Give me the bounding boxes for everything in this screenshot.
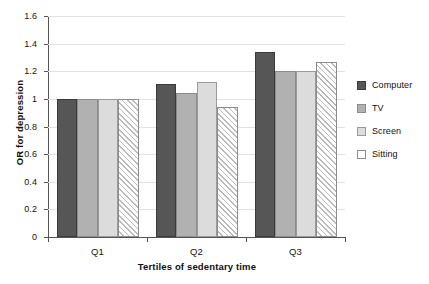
x-tick-label-q1: Q1 xyxy=(91,246,104,257)
x-tick-mark xyxy=(48,237,49,242)
legend-swatch-icon xyxy=(357,150,366,159)
y-tick-mark: 1 xyxy=(44,99,48,100)
bar-tv-q1 xyxy=(77,99,98,237)
y-tick-label: 0.8 xyxy=(24,122,37,132)
y-tick-label: 0 xyxy=(32,232,37,242)
bar-computer-q1 xyxy=(57,99,78,237)
legend-item-sitting[interactable]: Sitting xyxy=(357,149,429,159)
y-tick-label: 0.2 xyxy=(24,204,37,214)
y-tick-mark: 0.8 xyxy=(44,127,48,128)
x-tick-mark xyxy=(345,237,346,242)
bar-computer-q3 xyxy=(255,52,276,237)
bar-screen-q3 xyxy=(296,71,317,237)
x-tick-mark xyxy=(147,237,148,242)
bar-sitting-q3 xyxy=(316,62,337,237)
legend-label: Screen xyxy=(372,126,401,136)
bar-screen-q2 xyxy=(197,82,218,237)
y-tick-mark: 0.2 xyxy=(44,209,48,210)
bar-screen-q1 xyxy=(98,99,119,237)
x-axis-title: Tertiles of sedentary time xyxy=(48,261,346,272)
legend-label: Sitting xyxy=(372,149,398,159)
y-tick-label: 0.4 xyxy=(24,177,37,187)
y-tick-mark: 1.2 xyxy=(44,71,48,72)
y-tick-label: 0.6 xyxy=(24,149,37,159)
y-tick-label: 1.2 xyxy=(24,66,37,76)
bar-sitting-q1 xyxy=(118,99,139,237)
bar-sitting-q2 xyxy=(217,107,238,237)
y-tick-label: 1.4 xyxy=(24,39,37,49)
bar-tv-q2 xyxy=(176,93,197,237)
gridline xyxy=(48,44,345,45)
y-axis-title: OR for depression xyxy=(14,53,25,193)
y-tick-label: 1 xyxy=(32,94,37,104)
y-tick-label: 1.6 xyxy=(24,11,37,21)
legend-swatch-icon xyxy=(357,81,366,90)
x-tick-label-q2: Q2 xyxy=(190,246,203,257)
y-tick-mark: 1.4 xyxy=(44,44,48,45)
legend-label: TV xyxy=(372,103,384,113)
legend-item-computer[interactable]: Computer xyxy=(357,80,429,90)
y-tick-mark: 0.4 xyxy=(44,182,48,183)
legend-label: Computer xyxy=(372,80,412,90)
plot-area: 00.20.40.60.811.21.41.6 Q1Q2Q3 xyxy=(48,16,345,237)
legend-swatch-icon xyxy=(357,127,366,136)
legend-item-screen[interactable]: Screen xyxy=(357,126,429,136)
legend-item-tv[interactable]: TV xyxy=(357,103,429,113)
legend-swatch-icon xyxy=(357,104,366,113)
bar-computer-q2 xyxy=(156,84,177,237)
bar-tv-q3 xyxy=(275,71,296,237)
x-axis-line xyxy=(48,237,346,238)
legend: ComputerTVScreenSitting xyxy=(357,80,429,172)
y-tick-mark: 1.6 xyxy=(44,16,48,17)
x-tick-label-q3: Q3 xyxy=(289,246,302,257)
x-tick-mark xyxy=(246,237,247,242)
gridline xyxy=(48,16,345,17)
bar-chart-figure: OR for depression 00.20.40.60.811.21.41.… xyxy=(0,0,429,284)
y-tick-mark: 0.6 xyxy=(44,154,48,155)
